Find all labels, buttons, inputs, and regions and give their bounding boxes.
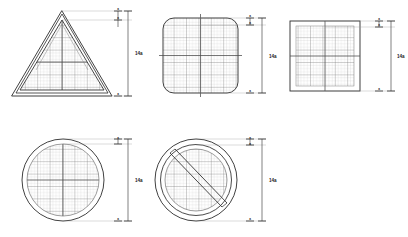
figure-prohibition bbox=[155, 139, 237, 221]
dimension-label-14a: 14a bbox=[269, 54, 277, 59]
dimension-label-a-top1: a bbox=[249, 14, 251, 18]
dimension-label-a-top2: a bbox=[117, 16, 119, 20]
dimension-label-a-bottom: a bbox=[117, 217, 119, 221]
drawing-canvas: a a a 14a a a a 14a bbox=[0, 0, 408, 237]
dimension-label-a-top2: a bbox=[249, 142, 251, 146]
dimension-label-a-bottom: a bbox=[378, 87, 380, 91]
dimension-label-a-top1: a bbox=[249, 136, 251, 140]
dimension-label-14a: 14a bbox=[135, 51, 143, 56]
dimension-label-a-top1: a bbox=[378, 17, 380, 21]
drawing-sheet: a a a 14a a a a 14a bbox=[0, 0, 408, 237]
dimension-label-a-top1: a bbox=[117, 7, 119, 11]
figure-circle bbox=[22, 139, 104, 221]
dimension-label-a-top2: a bbox=[378, 23, 380, 27]
figure-square bbox=[290, 21, 360, 91]
dimension-label-a-bottom: a bbox=[117, 92, 119, 96]
dimension-label-14a: 14a bbox=[269, 178, 277, 183]
rounded-square-grid bbox=[160, 15, 242, 97]
dimension-label-14a: 14a bbox=[397, 54, 405, 59]
dimension-label-a-bottom: a bbox=[249, 217, 251, 221]
dimension-label-a-top2: a bbox=[249, 21, 251, 25]
dimension-label-a-bottom: a bbox=[249, 89, 251, 93]
dimension-label-a-top1: a bbox=[117, 136, 119, 140]
figure-rounded-square bbox=[159, 14, 242, 97]
dimension-label-14a: 14a bbox=[135, 178, 143, 183]
